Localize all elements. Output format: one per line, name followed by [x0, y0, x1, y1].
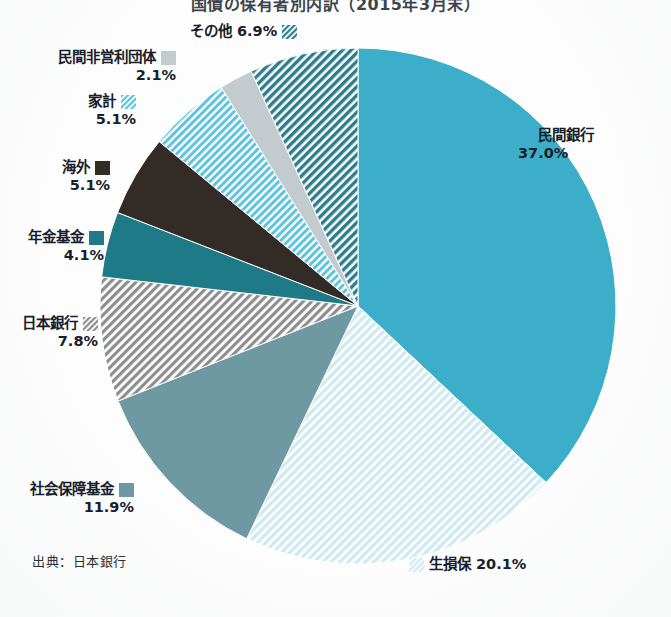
slice-label-minkan-hieiri-pct: 2.1%: [58, 67, 176, 85]
slice-label-kaigai-pct: 5.1%: [62, 177, 110, 195]
swatch-kaigai: [95, 161, 110, 175]
slice-label-minkan-ginko-name: 民間銀行: [538, 127, 594, 145]
source-note: 出典：日本銀行: [32, 551, 127, 570]
slice-label-minkan-hieiri: 民間非営利団体 2.1%: [58, 49, 176, 84]
slice-label-nenkin-kikin-name: 年金基金: [28, 229, 84, 247]
slice-label-sonota-name: その他: [190, 23, 232, 41]
slice-label-seisonpo-pct: 20.1%: [476, 556, 526, 574]
slice-label-kakei-name: 家計: [88, 93, 116, 111]
slice-label-sonota: その他 6.9%: [190, 23, 297, 41]
slice-label-minkan-ginko-pct: 37.0%: [518, 145, 594, 163]
pie-slices: [100, 48, 616, 564]
swatch-kakei: [121, 95, 136, 109]
slice-label-nenkin-kikin-pct: 4.1%: [28, 247, 104, 265]
slice-label-kaigai: 海外 5.1%: [62, 159, 110, 194]
slice-label-shakai-hosho-name: 社会保障基金: [30, 481, 114, 499]
swatch-minkan-hieiri: [161, 51, 176, 65]
slice-label-nihon-ginko-pct: 7.8%: [22, 333, 98, 351]
slice-label-seisonpo: 生損保 20.1%: [409, 556, 526, 574]
slice-label-sonota-pct: 6.9%: [237, 23, 277, 41]
slice-label-seisonpo-name: 生損保: [429, 556, 471, 574]
swatch-sonota: [282, 25, 297, 39]
slice-label-minkan-ginko: 民間銀行 37.0%: [518, 127, 594, 162]
swatch-nenkin-kikin: [89, 231, 104, 245]
slice-label-nenkin-kikin: 年金基金 4.1%: [28, 229, 104, 264]
slice-label-kaigai-name: 海外: [62, 159, 90, 177]
swatch-minkan-ginko: [518, 129, 533, 143]
slice-label-kakei-pct: 5.1%: [88, 111, 136, 129]
swatch-shakai-hosho: [119, 483, 134, 497]
slice-label-shakai-hosho: 社会保障基金 11.9%: [30, 481, 134, 516]
swatch-seisonpo: [409, 558, 424, 572]
swatch-nihon-ginko: [83, 317, 98, 331]
slice-label-nihon-ginko-name: 日本銀行: [22, 315, 78, 333]
slice-label-shakai-hosho-pct: 11.9%: [30, 499, 134, 517]
slice-label-kakei: 家計 5.1%: [88, 93, 136, 128]
slice-label-nihon-ginko: 日本銀行 7.8%: [22, 315, 98, 350]
slice-label-minkan-hieiri-name: 民間非営利団体: [58, 49, 156, 67]
